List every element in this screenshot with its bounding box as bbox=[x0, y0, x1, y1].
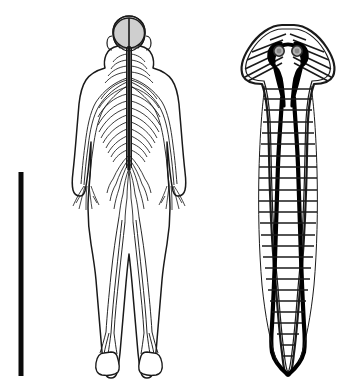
scale-bar-rect bbox=[19, 172, 24, 376]
nervous-system-figure bbox=[0, 0, 350, 383]
scale-bar bbox=[19, 172, 24, 376]
eyespot-left-pigment bbox=[277, 49, 282, 54]
eyespot-right-pigment bbox=[295, 49, 300, 54]
